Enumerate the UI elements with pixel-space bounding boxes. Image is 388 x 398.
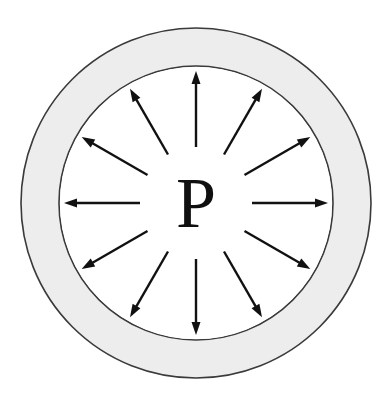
pressure-symbol: P <box>176 163 216 243</box>
figure-root: P <box>0 0 388 398</box>
pressure-vessel-diagram: P <box>0 0 388 398</box>
